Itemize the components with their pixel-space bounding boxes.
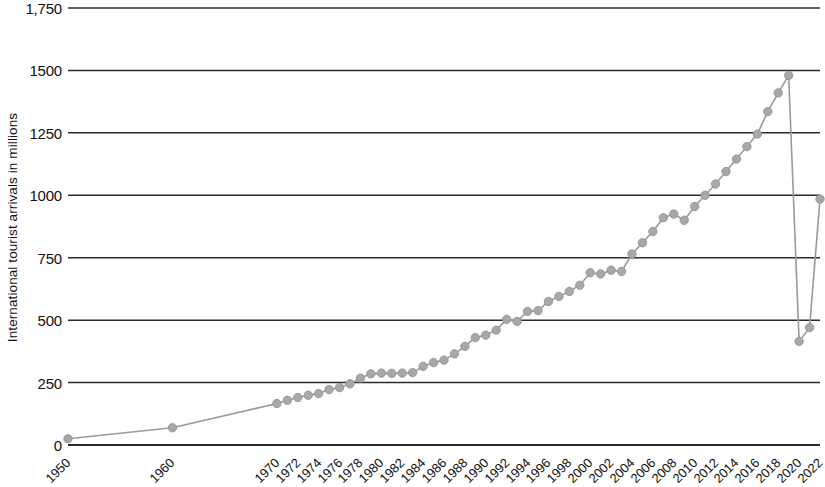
data-point [816,195,824,203]
data-point [774,89,782,97]
data-point [586,269,594,277]
data-point [346,380,354,388]
data-point [325,385,333,393]
data-point [388,369,396,377]
data-point [356,374,364,382]
plot-area: 02505007501000125015001,750 195019601970… [0,0,825,487]
data-point [576,281,584,289]
data-point [534,306,542,314]
data-point [429,358,437,366]
data-point [408,368,416,376]
data-point [367,370,375,378]
data-point [461,342,469,350]
data-point [784,71,792,79]
data-point [335,383,343,391]
data-point [523,307,531,315]
data-point [513,317,521,325]
data-point [398,369,406,377]
data-point [450,350,458,358]
data-point [711,180,719,188]
data-point [764,107,772,115]
data-point [555,292,563,300]
data-point [492,326,500,334]
tourist-arrivals-line-chart: International tourist arrivals in millio… [0,0,825,487]
data-point [722,167,730,175]
data-point [304,391,312,399]
data-point [471,333,479,341]
data-point [314,389,322,397]
chart-svg [0,0,825,487]
data-point [502,315,510,323]
data-point [795,337,803,345]
data-point [628,250,636,258]
data-point [680,216,688,224]
data-point [805,323,813,331]
data-point [273,399,281,407]
data-point [638,239,646,247]
data-point [690,202,698,210]
data-point [440,356,448,364]
data-point [743,142,751,150]
data-point [482,331,490,339]
data-point [701,191,709,199]
data-point [753,130,761,138]
data-point [294,393,302,401]
data-point [64,435,72,443]
data-point [732,155,740,163]
data-point [607,266,615,274]
data-point [649,227,657,235]
data-point [377,369,385,377]
data-point [617,267,625,275]
data-point [544,297,552,305]
data-point [168,424,176,432]
data-point [565,287,573,295]
gridlines [68,8,820,445]
data-point [283,396,291,404]
data-point [670,210,678,218]
data-point [419,362,427,370]
data-point [659,214,667,222]
data-point [596,270,604,278]
